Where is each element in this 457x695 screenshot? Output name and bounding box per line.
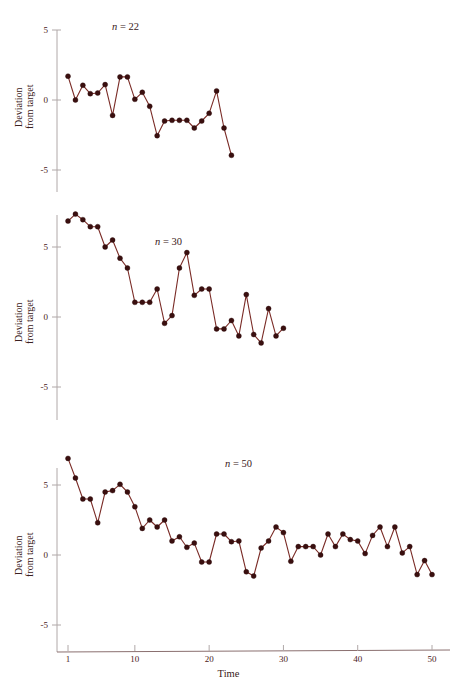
data-point	[430, 572, 435, 577]
data-point	[407, 544, 412, 549]
y-tick-label: 5	[44, 242, 49, 252]
data-point	[199, 560, 204, 565]
data-point	[400, 550, 405, 555]
data-point	[385, 544, 390, 549]
data-point	[236, 539, 241, 544]
panel-n50: Deviation from target n = 50 50-51102030…	[0, 430, 457, 695]
data-point	[303, 544, 308, 549]
data-point	[95, 224, 100, 229]
data-point	[326, 532, 331, 537]
data-point	[80, 83, 85, 88]
data-point	[281, 326, 286, 331]
panel-title-n30: n = 30	[155, 236, 182, 247]
data-point	[207, 560, 212, 565]
data-point	[251, 332, 256, 337]
data-point	[207, 287, 212, 292]
data-point	[207, 111, 212, 116]
data-point	[103, 245, 108, 250]
data-point	[103, 490, 108, 495]
data-point	[177, 118, 182, 123]
data-point	[229, 318, 234, 323]
y-axis-label-panel-3: Deviation from target	[14, 500, 36, 610]
data-point	[162, 518, 167, 523]
data-point	[155, 525, 160, 530]
data-point	[370, 533, 375, 538]
y-tick-label: 0	[44, 550, 49, 560]
data-point	[281, 530, 286, 535]
series-line	[68, 76, 231, 155]
data-point	[110, 488, 115, 493]
data-point	[170, 313, 175, 318]
data-point	[333, 544, 338, 549]
y-tick-label: -5	[41, 165, 49, 175]
data-point	[192, 541, 197, 546]
data-point	[363, 551, 368, 556]
data-point	[378, 525, 383, 530]
data-point	[311, 544, 316, 549]
data-point	[147, 518, 152, 523]
series-line	[68, 458, 432, 576]
y-tick-label: -5	[41, 382, 49, 392]
data-point	[222, 532, 227, 537]
data-point	[244, 292, 249, 297]
panel-title-rest: = 22	[117, 21, 139, 32]
data-point	[73, 212, 78, 217]
plot-area-n22: 50-5	[0, 0, 457, 215]
data-point	[177, 534, 182, 539]
data-point	[229, 539, 234, 544]
panel-title-n50: n = 50	[225, 458, 252, 469]
data-point	[66, 74, 71, 79]
data-point	[170, 539, 175, 544]
x-tick-label: 40	[353, 654, 363, 664]
data-point	[296, 544, 301, 549]
data-point	[80, 497, 85, 502]
data-point	[140, 90, 145, 95]
data-point	[132, 504, 137, 509]
data-point	[140, 526, 145, 531]
data-point	[192, 293, 197, 298]
data-point	[125, 490, 130, 495]
data-point	[110, 113, 115, 118]
data-point	[73, 476, 78, 481]
series-line	[68, 214, 283, 343]
data-point	[170, 118, 175, 123]
data-point	[66, 219, 71, 224]
x-tick-label: 10	[130, 654, 140, 664]
y-axis-label-panel-2: Deviation from target	[14, 267, 36, 377]
data-point	[95, 520, 100, 525]
y-tick-label: 5	[44, 480, 49, 490]
data-point	[147, 300, 152, 305]
y-tick-label: 0	[44, 95, 49, 105]
y-tick-label: 0	[44, 312, 49, 322]
data-point	[222, 326, 227, 331]
panel-n30: Deviation from target n = 30 50-5	[0, 215, 457, 430]
y-tick-label: -5	[41, 620, 49, 630]
data-point	[118, 74, 123, 79]
data-point	[66, 456, 71, 461]
data-point	[199, 287, 204, 292]
data-point	[80, 217, 85, 222]
data-point	[192, 126, 197, 131]
data-point	[222, 126, 227, 131]
data-point	[118, 482, 123, 487]
data-point	[73, 98, 78, 103]
data-point	[229, 153, 234, 158]
data-point	[199, 119, 204, 124]
data-point	[125, 266, 130, 271]
x-tick-label: 30	[279, 654, 289, 664]
data-point	[88, 224, 93, 229]
x-tick-label: 50	[428, 654, 438, 664]
data-point	[266, 306, 271, 311]
plot-area-n30: 50-5	[0, 215, 457, 430]
data-point	[125, 74, 130, 79]
data-point	[118, 256, 123, 261]
data-point	[88, 497, 93, 502]
panel-title-n22: n = 22	[112, 21, 139, 32]
data-point	[214, 532, 219, 537]
data-point	[103, 82, 108, 87]
data-point	[259, 340, 264, 345]
data-point	[266, 539, 271, 544]
data-point	[162, 321, 167, 326]
data-point	[244, 569, 249, 574]
x-tick-label: 20	[205, 654, 215, 664]
